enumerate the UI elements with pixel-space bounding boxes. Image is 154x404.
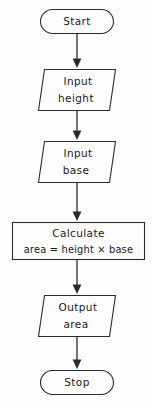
input-base-label-line-1: Input [63,147,92,159]
connector-output-area-to-stop [73,337,82,370]
node-start: Start [41,10,114,34]
connector-input-base-to-calculate-area [73,183,82,222]
flowchart-diagram: Start Input height Input base [0,0,154,404]
input-height-label-line-2: height [58,92,94,104]
stop-label: Stop [64,376,89,388]
connector-start-to-input-height [73,34,82,69]
output-area-label-line-1: Output [59,301,98,313]
connector-calculate-area-to-output-area [73,260,82,295]
arrowhead-icon [73,360,82,370]
output-area-label-line-2: area [63,318,88,330]
input-height-label-line-1: Input [63,75,92,87]
start-label: Start [63,15,91,27]
calculate-area-label-line-1: Calculate [52,227,105,239]
arrowhead-icon [73,59,82,69]
connector-input-height-to-input-base [73,111,82,141]
node-input-height: Input height [39,70,116,111]
node-input-base: Input base [39,142,116,183]
arrowhead-icon [73,131,82,141]
arrowhead-icon [73,212,82,222]
calculate-area-formula: area = height × base [24,244,133,255]
node-stop: Stop [41,371,114,395]
arrowhead-icon [73,285,82,295]
node-calculate-area: Calculate area = height × base [13,223,145,260]
input-base-label-line-2: base [63,164,90,176]
node-output-area: Output area [39,296,116,337]
